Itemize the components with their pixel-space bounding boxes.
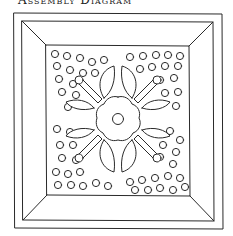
dot (144, 186, 151, 193)
dot (138, 176, 145, 183)
dot (88, 58, 95, 65)
dot (55, 75, 62, 82)
dot (76, 54, 83, 61)
dot (176, 174, 183, 181)
dot (72, 91, 79, 98)
dot (176, 52, 183, 59)
dot (64, 170, 71, 177)
dot (79, 182, 86, 189)
dot (156, 184, 163, 191)
dot (56, 141, 63, 148)
dot (104, 182, 111, 189)
dot (159, 141, 166, 148)
dot (51, 50, 58, 57)
dot (164, 51, 171, 58)
dot (131, 186, 138, 193)
dot (79, 69, 86, 76)
dot (53, 62, 60, 69)
dot (164, 172, 171, 179)
dot (63, 52, 70, 59)
dot (58, 88, 65, 95)
dot (152, 51, 159, 58)
assembly-diagram (0, 0, 233, 236)
dot (92, 179, 99, 186)
dot (172, 102, 179, 109)
dot (139, 52, 146, 59)
dot (170, 74, 177, 81)
dot (169, 186, 176, 193)
dot (148, 63, 155, 70)
dot (136, 65, 143, 72)
center-flower (96, 96, 140, 140)
dot (174, 88, 181, 95)
dot (126, 178, 133, 185)
dot (169, 160, 176, 167)
dot (54, 181, 61, 188)
dot (69, 141, 76, 148)
dot (52, 168, 59, 175)
dot (58, 154, 65, 161)
dot (151, 174, 158, 181)
dot (174, 62, 181, 69)
dot (161, 89, 168, 96)
dot (76, 168, 83, 175)
dot (176, 136, 183, 143)
dot (172, 148, 179, 155)
dot (161, 62, 168, 69)
dot (126, 53, 133, 60)
dot (67, 181, 74, 188)
dot (53, 125, 60, 132)
dot (66, 66, 73, 73)
dot (100, 56, 107, 63)
dot (91, 69, 98, 76)
dot (181, 183, 188, 190)
